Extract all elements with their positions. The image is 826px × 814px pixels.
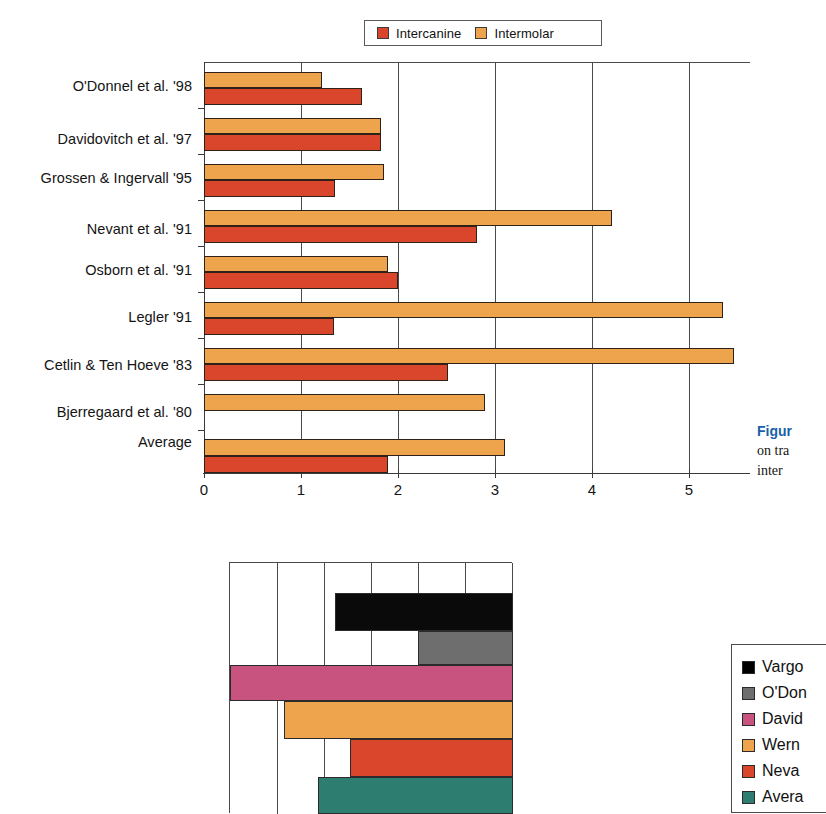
gridline-4 (592, 62, 593, 474)
bar-intercanine (204, 364, 448, 381)
legend-entry-intercanine: Intercanine (377, 26, 461, 41)
legend-label-odonnel: O'Don (762, 684, 807, 702)
gridline-5 (689, 62, 690, 474)
x-tick-2 (398, 469, 399, 478)
category-label: O'Donnel et al. '98 (73, 78, 192, 94)
y-tick (198, 338, 204, 339)
bar-intermolar (204, 348, 734, 364)
legend-label-average: Avera (762, 788, 804, 806)
second-bar-chart: Vargo O'Don David Wern Neva Avera (0, 520, 810, 813)
y-tick (198, 200, 204, 201)
legend-label-intercanine: Intercanine (396, 26, 461, 41)
legend-entry-neva: Neva (732, 758, 826, 784)
bar-intercanine (204, 272, 398, 289)
bar-intermolar (204, 302, 723, 318)
figure-caption: Figur on tra inter (757, 422, 817, 481)
intercanine-color-swatch (377, 27, 389, 39)
x-tick-5 (689, 469, 690, 478)
category-label: Grossen & Ingervall '95 (41, 170, 192, 186)
x-tick-label: 0 (200, 481, 208, 498)
chart-legend: Intercanine Intermolar (364, 20, 602, 46)
average-color-swatch (742, 791, 755, 804)
bar-average (318, 777, 513, 814)
vargo-color-swatch (742, 661, 755, 674)
plot-top-border (204, 62, 750, 63)
y-tick (198, 292, 204, 293)
bar-intercanine (204, 88, 362, 105)
bar-intercanine (204, 180, 335, 197)
legend-entry-vargo: Vargo (732, 654, 826, 680)
legend-entry-intermolar: Intermolar (475, 26, 554, 41)
intermolar-color-swatch (475, 27, 487, 39)
y-tick (198, 108, 204, 109)
y-tick (198, 430, 204, 431)
bar-intermolar (204, 164, 384, 180)
x-tick-4 (592, 469, 593, 478)
bar-wern (284, 701, 513, 739)
chart-legend-bottom: Vargo O'Don David Wern Neva Avera (731, 644, 826, 813)
david-color-swatch (742, 713, 755, 726)
legend-label-neva: Neva (762, 762, 799, 780)
gridline-2 (398, 62, 399, 474)
bar-intermolar (204, 394, 485, 411)
x-tick-label: 2 (394, 481, 402, 498)
category-label: Nevant et al. '91 (87, 221, 192, 237)
plot-area-bottom (229, 562, 512, 813)
wern-color-swatch (742, 739, 755, 752)
bar-intercanine (204, 318, 334, 335)
x-tick-label: 5 (685, 481, 693, 498)
category-label: Bjerregaard et al. '80 (57, 404, 192, 420)
category-label: Davidovitch et al. '97 (58, 131, 192, 147)
legend-entry-odonnel: O'Don (732, 680, 826, 706)
x-tick-label: 4 (588, 481, 596, 498)
y-tick (198, 246, 204, 247)
caption-line: on tra (757, 441, 817, 461)
legend-label-vargo: Vargo (762, 658, 804, 676)
x-tick-3 (495, 469, 496, 478)
x-tick-label: 1 (297, 481, 305, 498)
bar-intermolar (204, 439, 505, 456)
category-label: Osborn et al. '91 (85, 262, 192, 278)
legend-label-wern: Wern (762, 736, 800, 754)
x-axis-line (203, 473, 750, 474)
legend-label-intermolar: Intermolar (494, 26, 554, 41)
legend-label-david: David (762, 710, 803, 728)
bar-intermolar (204, 118, 381, 134)
gridline-3 (495, 62, 496, 474)
bar-neva (350, 739, 513, 777)
legend-entry-average: Avera (732, 784, 826, 810)
caption-figure-label: Figur (757, 422, 817, 441)
bar-intercanine (204, 134, 381, 151)
bar-odonnel (418, 631, 513, 665)
odonnel-color-swatch (742, 687, 755, 700)
bar-intercanine (204, 226, 477, 243)
bar-david (230, 665, 513, 701)
bar-vargo (335, 593, 513, 631)
intercanine-intermolar-bar-chart: Intercanine Intermolar O'Donnel et al. '… (0, 0, 810, 520)
legend-entry-david: David (732, 706, 826, 732)
bar-intercanine (204, 456, 388, 473)
plot-area: 0 1 2 3 4 5 (204, 62, 750, 474)
caption-line: inter (757, 461, 817, 481)
category-label: Average (138, 434, 192, 450)
bar-intermolar (204, 256, 388, 272)
category-label: Cetlin & Ten Hoeve '83 (44, 357, 192, 373)
neva-color-swatch (742, 765, 755, 778)
bar-intermolar (204, 210, 612, 226)
y-tick (198, 384, 204, 385)
y-tick (198, 154, 204, 155)
bar-intermolar (204, 72, 322, 88)
category-label: Legler '91 (128, 309, 192, 325)
legend-entry-wern: Wern (732, 732, 826, 758)
x-tick-label: 3 (491, 481, 499, 498)
